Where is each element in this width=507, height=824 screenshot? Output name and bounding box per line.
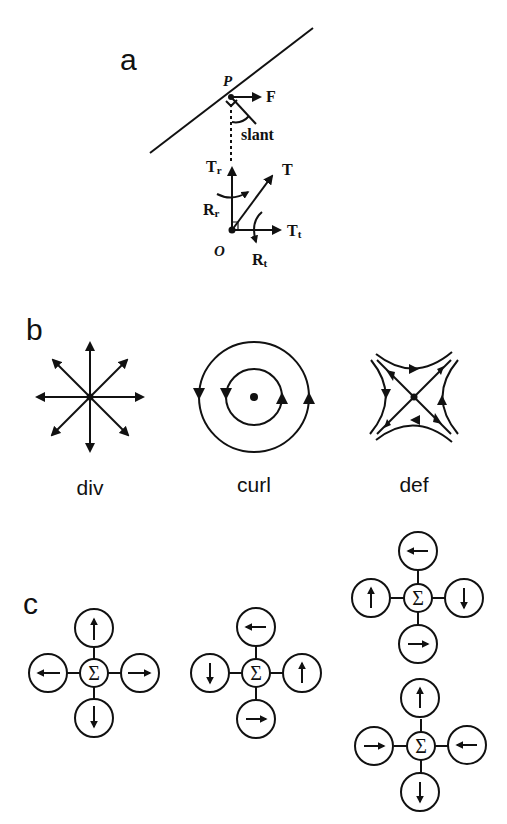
svg-text:Σ: Σ [412, 587, 424, 609]
label-rt: Rt [252, 251, 268, 269]
label-tt: Tt [287, 222, 302, 240]
panel-a: a P F slant Tr T Tt O Rr Rt [120, 28, 313, 269]
panel-b: b div curl [26, 313, 458, 499]
label-o: O [214, 243, 225, 259]
label-tr: Tr [206, 158, 222, 176]
caption-div: div [77, 476, 104, 499]
label-rr: Rr [203, 201, 220, 219]
sum-cluster-div: Σ [29, 609, 159, 737]
slant-angle-arc [232, 116, 249, 122]
svg-text:Σ: Σ [250, 662, 262, 684]
label-slant: slant [241, 126, 275, 143]
panel-label-a: a [120, 43, 137, 76]
caption-curl: curl [237, 473, 271, 496]
rt-rotation-arrow [254, 212, 262, 242]
div-field-diagram [37, 343, 143, 451]
point-o [229, 227, 236, 234]
panel-label-c: c [23, 587, 38, 620]
svg-text:Σ: Σ [88, 662, 100, 684]
def-field-diagram [370, 352, 458, 442]
svg-text:Σ: Σ [415, 735, 427, 757]
label-p: P [223, 73, 233, 89]
sum-cluster-def-1: Σ [352, 532, 483, 663]
label-t: T [282, 161, 293, 178]
sum-cluster-def-2: Σ [355, 679, 486, 811]
sum-cluster-curl: Σ [191, 608, 321, 738]
panel-label-b: b [26, 313, 43, 346]
label-f: F [266, 88, 276, 105]
panel-c: c Σ Σ Σ [23, 532, 486, 811]
curl-field-diagram [193, 342, 315, 452]
figure-canvas: a P F slant Tr T Tt O Rr Rt [0, 0, 507, 824]
caption-def: def [399, 473, 428, 496]
